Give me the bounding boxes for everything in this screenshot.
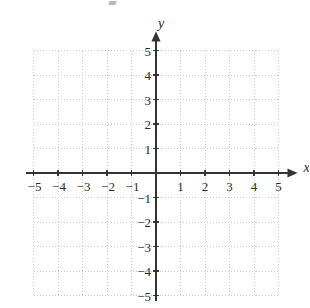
x-axis-arrowhead-icon bbox=[288, 168, 298, 177]
x-tick-label: 2 bbox=[202, 180, 209, 193]
x-tick-label: 5 bbox=[275, 180, 282, 193]
x-tick-label: −3 bbox=[77, 180, 91, 193]
x-axis-name-label: x bbox=[304, 161, 310, 175]
y-tick-label: 1 bbox=[145, 142, 152, 155]
x-tick-label: 1 bbox=[177, 180, 184, 193]
y-tick-label: 2 bbox=[145, 118, 152, 131]
y-tick-label: 3 bbox=[145, 93, 152, 106]
y-tick-label: −5 bbox=[137, 289, 151, 302]
y-axis-arrowhead-icon bbox=[151, 32, 160, 42]
y-axis-name-label: y bbox=[158, 17, 164, 31]
x-tick-label: −4 bbox=[52, 180, 66, 193]
coordinate-plane-figure: −5−4−3−2−112345 54321−1−2−3−4−5 x y bbox=[0, 0, 309, 308]
x-tick-label: 4 bbox=[251, 180, 258, 193]
y-tick-label: −4 bbox=[137, 265, 151, 278]
y-tick-label: −3 bbox=[137, 240, 151, 253]
x-tick-label: 3 bbox=[226, 180, 233, 193]
y-tick-label: −2 bbox=[137, 216, 151, 229]
coordinate-plane-graphic bbox=[0, 0, 309, 308]
x-tick-label: −2 bbox=[101, 180, 115, 193]
x-tick-label: −5 bbox=[28, 180, 42, 193]
y-tick-label: 4 bbox=[145, 69, 152, 82]
y-tick-label: 5 bbox=[145, 44, 152, 57]
y-tick-label: −1 bbox=[137, 191, 151, 204]
axis-lines bbox=[26, 32, 298, 301]
